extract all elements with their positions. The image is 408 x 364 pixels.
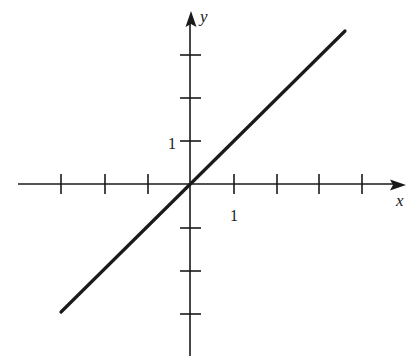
x-axis-arrow-icon (390, 180, 406, 191)
x-tick-label-1: 1 (230, 207, 238, 224)
function-line (61, 31, 345, 312)
x-axis-label: x (395, 191, 404, 210)
graph-canvas: y x 1 1 (0, 0, 408, 364)
y-axis-label: y (198, 7, 208, 26)
y-tick-label-1: 1 (168, 135, 176, 152)
y-axis-arrow-icon (186, 11, 197, 27)
